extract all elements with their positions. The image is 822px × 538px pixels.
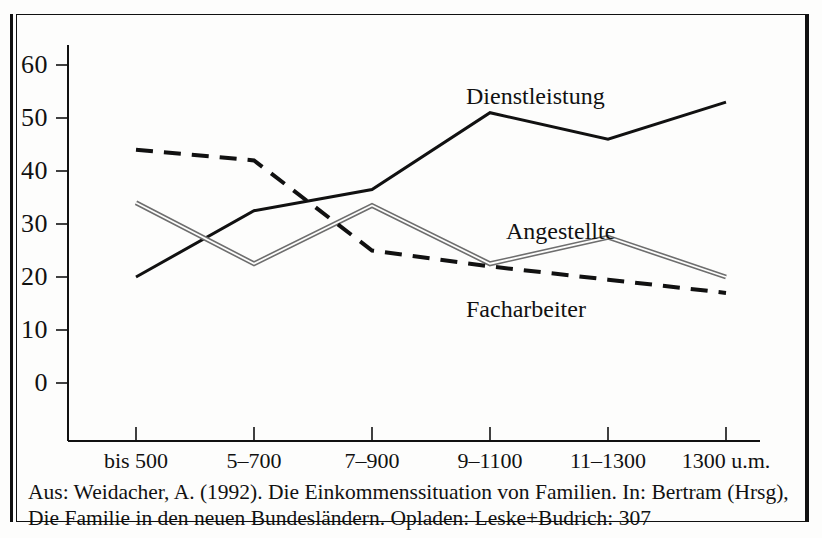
figure-page: 0102030405060 bis 5005–7007–9009–110011–… — [0, 0, 822, 538]
series-label-dienstleistung: Dienstleistung — [466, 84, 605, 108]
series-label-angestellte: Angestellte — [506, 219, 615, 243]
figure-caption: Aus: Weidacher, A. (1992). Die Einkommen… — [28, 480, 804, 531]
y-axis-tick-label: 20 — [0, 264, 48, 290]
caption-line-2: Die Familie in den neuen Bundesländern. … — [28, 506, 804, 532]
caption-line-1: Aus: Weidacher, A. (1992). Die Einkommen… — [28, 480, 804, 506]
y-axis-tick-label: 30 — [0, 211, 48, 237]
right-border-rule — [806, 14, 809, 522]
y-axis-tick-label: 60 — [0, 52, 48, 78]
y-axis-tick-label: 10 — [0, 317, 48, 343]
y-axis-tick-label: 50 — [0, 105, 48, 131]
figure-border — [16, 14, 806, 522]
y-axis-tick-label: 0 — [0, 370, 48, 396]
x-axis-tick-label: 1300 u.m. — [646, 450, 806, 472]
series-label-facharbeiter: Facharbeiter — [466, 297, 586, 321]
y-axis-tick-label: 40 — [0, 158, 48, 184]
